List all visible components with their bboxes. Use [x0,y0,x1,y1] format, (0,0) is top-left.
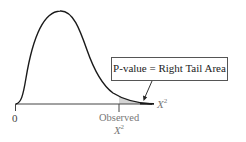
observed-label: Observed [99,112,139,123]
x-axis-superscript: 2 [164,97,168,105]
origin-label: 0 [12,112,18,124]
observed-x2-label: X2 [99,123,139,136]
p-value-callout-label: P-value = Right Tail Area [112,62,227,74]
x-axis-variable-label: X2 [157,97,167,110]
observed-variable: X [114,124,121,136]
observed-superscript: 2 [121,123,125,131]
x-axis-variable: X [157,98,164,110]
callout-arrow-line [145,81,152,97]
right-tail-shaded-area [119,96,152,104]
